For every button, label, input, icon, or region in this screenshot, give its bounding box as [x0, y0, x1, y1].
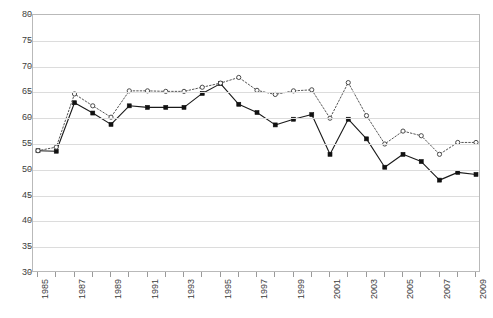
series-line-series-dotted-circle — [38, 77, 476, 154]
x-axis-label: 1989 — [114, 279, 123, 299]
x-axis-label: 1995 — [224, 279, 233, 299]
series-line-series-solid-square — [38, 84, 476, 180]
data-point-series-dotted-circle — [91, 104, 95, 108]
data-point-series-solid-square — [182, 105, 186, 109]
x-axis-tick — [92, 272, 93, 277]
data-point-series-solid-square — [237, 102, 241, 106]
gridline — [33, 221, 479, 222]
data-point-series-dotted-circle — [36, 149, 40, 153]
data-point-series-dotted-circle — [419, 134, 423, 138]
x-axis-tick — [311, 272, 312, 277]
x-axis-tick — [402, 272, 403, 277]
data-point-series-solid-square — [91, 111, 95, 115]
x-axis-label: 2007 — [443, 279, 452, 299]
data-point-series-solid-square — [419, 160, 423, 164]
y-axis: 3035404550556065707580 — [0, 14, 32, 272]
gridline — [33, 144, 479, 145]
gridline — [33, 92, 479, 93]
x-axis-label: 2009 — [479, 279, 488, 299]
x-axis-label: 1993 — [187, 279, 196, 299]
gridline — [33, 170, 479, 171]
data-point-series-solid-square — [365, 137, 369, 141]
x-axis-tick — [329, 272, 330, 277]
x-axis-tick — [384, 272, 385, 277]
gridline — [33, 196, 479, 197]
x-axis-tick — [110, 272, 111, 277]
data-point-series-dotted-circle — [364, 114, 368, 118]
data-point-series-solid-square — [109, 122, 113, 126]
data-point-series-solid-square — [164, 105, 168, 109]
data-point-series-solid-square — [401, 152, 405, 156]
x-axis-tick — [220, 272, 221, 277]
data-point-series-solid-square — [383, 165, 387, 169]
x-axis-tick — [347, 272, 348, 277]
data-point-series-solid-square — [219, 82, 223, 86]
data-point-series-solid-square — [127, 104, 131, 108]
data-point-series-solid-square — [146, 105, 150, 109]
data-point-series-solid-square — [310, 113, 314, 117]
chart-container: 3035404550556065707580 19851987198919911… — [0, 0, 493, 318]
x-axis-label: 1991 — [151, 279, 160, 299]
gridline — [33, 118, 479, 119]
plot-area — [32, 14, 480, 272]
x-axis-label: 1997 — [260, 279, 269, 299]
x-axis-tick — [439, 272, 440, 277]
data-point-series-solid-square — [328, 152, 332, 156]
chart-title — [34, 0, 454, 3]
x-axis-tick — [165, 272, 166, 277]
x-axis-tick — [457, 272, 458, 277]
x-axis-tick — [74, 272, 75, 277]
x-axis-tick — [475, 272, 476, 277]
x-axis-label: 2003 — [370, 279, 379, 299]
x-axis: 1985198719891991199319951997199920012003… — [32, 272, 480, 318]
data-point-series-dotted-circle — [346, 81, 350, 85]
x-axis-label: 2001 — [333, 279, 342, 299]
data-point-series-solid-square — [474, 172, 478, 176]
data-point-series-dotted-circle — [437, 152, 441, 156]
x-axis-label: 2005 — [406, 279, 415, 299]
x-axis-tick — [128, 272, 129, 277]
x-axis-tick — [55, 272, 56, 277]
data-point-series-solid-square — [54, 149, 58, 153]
data-point-series-solid-square — [36, 149, 40, 153]
data-point-series-dotted-circle — [218, 81, 222, 85]
x-axis-label: 1985 — [41, 279, 50, 299]
data-point-series-solid-square — [255, 111, 259, 115]
x-axis-tick — [274, 272, 275, 277]
data-point-series-solid-square — [456, 170, 460, 174]
data-point-series-solid-square — [273, 123, 277, 127]
data-point-series-solid-square — [73, 101, 77, 105]
x-axis-label: 1987 — [78, 279, 87, 299]
gridline — [33, 67, 479, 68]
x-axis-tick — [420, 272, 421, 277]
plot-inner — [33, 15, 479, 271]
data-point-series-dotted-circle — [401, 129, 405, 133]
x-axis-tick — [238, 272, 239, 277]
x-axis-tick — [366, 272, 367, 277]
data-point-series-dotted-circle — [200, 85, 204, 89]
x-axis-label: 1999 — [297, 279, 306, 299]
gridline — [33, 247, 479, 248]
gridline — [33, 41, 479, 42]
x-axis-tick — [183, 272, 184, 277]
x-axis-tick — [147, 272, 148, 277]
x-axis-tick — [293, 272, 294, 277]
data-point-series-dotted-circle — [54, 145, 58, 149]
x-axis-tick — [256, 272, 257, 277]
data-point-series-dotted-circle — [237, 75, 241, 79]
data-point-series-solid-square — [438, 178, 442, 182]
x-axis-tick — [201, 272, 202, 277]
data-point-series-dotted-circle — [310, 88, 314, 92]
x-axis-tick — [37, 272, 38, 277]
